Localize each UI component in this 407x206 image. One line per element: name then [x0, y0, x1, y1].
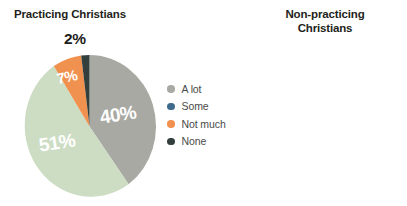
page-title-left: Practicing Christians — [0, 8, 126, 22]
legend-dot-icon-a-lot — [167, 85, 175, 93]
legend: A lot Some Not much None — [167, 80, 243, 150]
page-title-right-line2: Christians — [298, 22, 353, 34]
legend-item-not-much[interactable]: Not much — [167, 115, 243, 133]
page-title-right: Non-practicing Christians — [243, 8, 407, 35]
legend-item-a-lot[interactable]: A lot — [167, 80, 243, 98]
legend-label-a-lot: A lot — [182, 83, 202, 95]
legend-label-none: None — [182, 135, 207, 147]
slice-label-none-left: 2% — [64, 30, 86, 48]
legend-dot-icon-none — [167, 138, 175, 146]
legend-item-none[interactable]: None — [167, 133, 243, 151]
pie-chart-practicing: 40% 51% 7% — [23, 55, 156, 198]
legend-label-some: Some — [182, 100, 209, 112]
legend-label-not-much: Not much — [182, 118, 226, 130]
legend-dot-icon-some — [167, 103, 175, 111]
page-title-right-line1: Non-practicing — [285, 8, 364, 20]
chart-panel-non-practicing: Non-practicing Christians 21% 43% 23% 12… — [243, 0, 407, 206]
legend-dot-icon-not-much — [167, 120, 175, 128]
legend-item-some[interactable]: Some — [167, 98, 243, 116]
